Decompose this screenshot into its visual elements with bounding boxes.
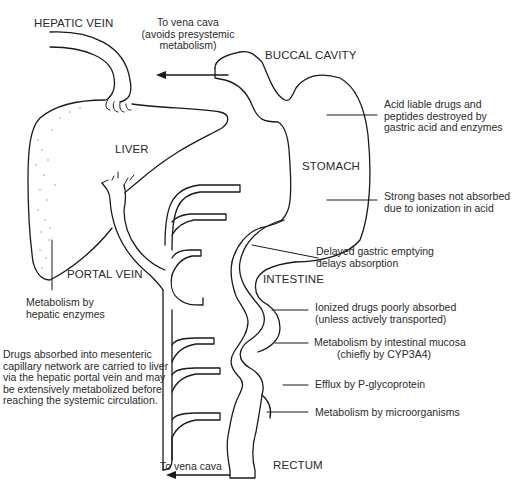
label-liver: LIVER (115, 143, 149, 155)
liver-shape (28, 100, 228, 290)
note-efflux: Efflux by P-glycoprotein (315, 379, 425, 391)
note-line: due to ionization in acid (384, 203, 510, 215)
label-hepatic-vein: HEPATIC VEIN (34, 17, 113, 29)
note-line: delays absorption (316, 258, 434, 270)
note-hepatic-enzymes: Metabolism by hepatic enzymes (26, 297, 105, 320)
note-line: Metabolism by (26, 297, 105, 309)
note-stomach-acid: Acid liable drugs and peptides destroyed… (384, 99, 502, 134)
note-line: (unless actively transported) (315, 314, 456, 326)
note-line: hepatic enzymes (26, 309, 105, 321)
note-line: Ionized drugs poorly absorbed (315, 302, 456, 314)
note-line: reaching the systemic circulation. (3, 395, 168, 407)
note-line: metabolism) (138, 40, 238, 52)
note-intestinal-mucosa: Metabolism by intestinal mucosa (chiefly… (314, 337, 454, 360)
gi-absorption-diagram: HEPATIC VEIN BUCCAL CAVITY LIVER STOMACH… (0, 0, 514, 497)
label-portal-vein: PORTAL VEIN (67, 268, 143, 280)
note-line: Drugs absorbed into mesenteric (3, 349, 168, 361)
note-line: (chiefly by CYP3A4) (314, 349, 454, 361)
label-buccal-cavity: BUCCAL CAVITY (265, 49, 356, 61)
note-microorganisms: Metabolism by microorganisms (315, 407, 460, 419)
note-line: To vena cava (138, 17, 238, 29)
note-line: Strong bases not absorbed (384, 191, 510, 203)
note-buccal-vena-cava: To vena cava (avoids presystemic metabol… (138, 17, 238, 52)
liver-stipple (35, 107, 80, 268)
label-stomach: STOMACH (302, 160, 360, 172)
anatomy-drawing (0, 0, 514, 497)
note-ionized-drugs: Ionized drugs poorly absorbed (unless ac… (315, 302, 456, 325)
note-line: Acid liable drugs and (384, 99, 502, 111)
note-line: via the hepatic portal vein and may (3, 372, 168, 384)
note-strong-bases: Strong bases not absorbed due to ionizat… (384, 191, 510, 214)
note-gastric-emptying: Delayed gastric emptying delays absorpti… (316, 246, 434, 269)
note-line: Delayed gastric emptying (316, 246, 434, 258)
note-rectum-vena-cava: To vena cava (160, 461, 222, 473)
label-intestine: INTESTINE (263, 273, 324, 285)
note-line: gastric acid and enzymes (384, 122, 502, 134)
label-rectum: RECTUM (273, 459, 323, 471)
note-portal-description: Drugs absorbed into mesenteric capillary… (3, 349, 168, 407)
note-line: Metabolism by intestinal mucosa (314, 337, 454, 349)
mesenteric-veins-shape (163, 185, 240, 470)
